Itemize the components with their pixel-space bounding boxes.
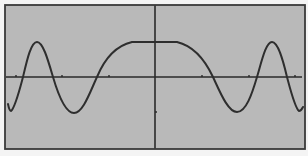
graph-plot xyxy=(0,0,308,156)
calculator-graph-screen xyxy=(0,0,308,156)
